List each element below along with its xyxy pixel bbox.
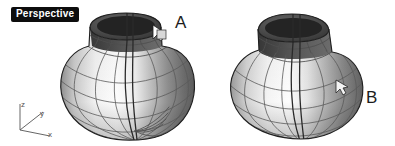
axis-label-y: y: [40, 110, 44, 118]
axis-label-z: z: [21, 101, 25, 109]
viewport-title-label[interactable]: Perspective: [11, 7, 79, 22]
object-label-a: A: [175, 14, 186, 31]
object-label-b: B: [366, 89, 377, 106]
axis-label-x: x: [48, 131, 52, 139]
surface-a[interactable]: [59, 13, 195, 141]
surface-b-open-neck: [258, 14, 332, 59]
surface-b[interactable]: [230, 14, 363, 141]
perspective-viewport[interactable]: .iso { fill:none; stroke:#4f4f4f; stroke…: [0, 0, 395, 146]
